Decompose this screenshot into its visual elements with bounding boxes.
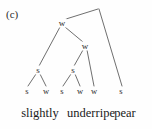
tree-leaf-l5: w	[91, 87, 97, 96]
tree-leaf-l2: w	[43, 87, 49, 96]
tree-edge	[65, 27, 83, 42]
tree-edge	[74, 50, 83, 66]
figure-panel: (c) wwss swswws slightlyunderripepear	[0, 0, 152, 129]
tree-leaf-l6: s	[119, 87, 122, 96]
tree-node-s2: s	[70, 66, 76, 75]
tree-edge	[39, 27, 60, 66]
panel-caption: (c)	[6, 9, 18, 20]
terminal-word-word3: pear	[114, 107, 136, 120]
tree-edge	[87, 50, 94, 86]
tree-edge	[28, 74, 36, 86]
tree-edge	[75, 74, 80, 86]
tree-leaf-l1: s	[25, 87, 28, 96]
tree-node-s1: s	[35, 66, 41, 75]
tree-leaf-l4: w	[77, 87, 83, 96]
tree-edge	[63, 74, 71, 86]
tree-node-w1: w	[58, 19, 67, 28]
tree-leaf-l3: s	[60, 87, 63, 96]
tree-edge	[40, 74, 46, 86]
terminal-word-word1: slightly	[21, 107, 59, 120]
tree-edge	[99, 9, 122, 86]
terminal-word-word2: underripe	[67, 107, 115, 120]
tree-node-w2: w	[81, 42, 90, 51]
tree-edge	[66, 9, 98, 19]
